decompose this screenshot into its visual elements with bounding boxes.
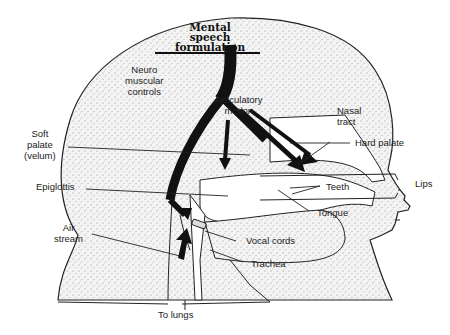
label-trachea: Trachea xyxy=(251,258,286,269)
label-vocal-cords: Vocal cords xyxy=(246,235,295,246)
label-line: (velum) xyxy=(24,150,56,161)
title-line: formulation xyxy=(165,42,255,52)
label-tongue: Tongue xyxy=(317,207,348,218)
label-line: Nasal xyxy=(337,105,361,116)
label-articulatory-motion: Articulatory motion xyxy=(215,94,263,116)
label-line: muscular xyxy=(125,75,164,86)
label-air-stream: Air stream xyxy=(54,222,83,244)
title-mental-speech-formulation: Mental speech formulation xyxy=(165,22,255,52)
label-line: tract xyxy=(337,116,361,127)
label-line: motion xyxy=(215,105,263,116)
label-neuromuscular-controls: Neuro muscular controls xyxy=(125,64,164,97)
label-line: controls xyxy=(125,86,164,97)
label-line: Articulatory xyxy=(215,94,263,105)
label-teeth: Teeth xyxy=(326,181,349,192)
label-line: palate xyxy=(24,139,56,150)
speech-production-diagram: Mental speech formulation Neuro muscular… xyxy=(0,0,450,335)
label-to-lungs: To lungs xyxy=(158,309,193,320)
label-nasal-tract: Nasal tract xyxy=(337,105,361,127)
label-line: Neuro xyxy=(125,64,164,75)
label-epiglottis: Epiglottis xyxy=(36,181,75,192)
label-lips: Lips xyxy=(415,178,432,189)
label-line: Air xyxy=(54,222,83,233)
label-soft-palate: Soft palate (velum) xyxy=(24,128,56,161)
label-hard-palate: Hard palate xyxy=(355,137,404,148)
label-line: Soft xyxy=(24,128,56,139)
label-line: stream xyxy=(54,233,83,244)
